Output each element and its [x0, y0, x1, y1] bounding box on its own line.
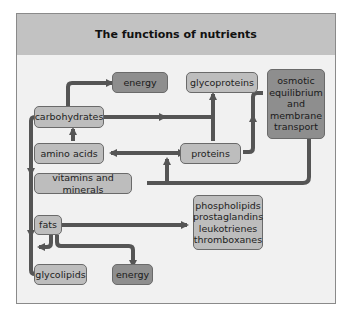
node-lipid-products: phospholipids prostaglandins leukotriene… — [193, 195, 263, 250]
arrow-carbs-to-glycolipids — [31, 117, 47, 274]
diagram-frame: The functions of nutrients — [16, 13, 336, 304]
node-fats: fats — [34, 215, 62, 235]
node-carbohydrates: carbohydrates — [34, 106, 104, 128]
arrow-fats-to-glycolipids — [39, 235, 51, 247]
node-vitamins-and-minerals: vitamins and minerals — [34, 173, 132, 194]
node-glycolipids: glycolipids — [34, 264, 87, 285]
node-energy-bottom: energy — [112, 264, 153, 285]
node-amino-acids: amino acids — [34, 143, 104, 164]
arrow-fats-to-energy — [57, 235, 133, 266]
node-glycoproteins: glycoproteins — [186, 72, 258, 93]
node-proteins: proteins — [180, 143, 241, 164]
node-osmotic-equilibrium: osmotic equilibrium and membrane transpo… — [267, 69, 325, 139]
node-energy-top: energy — [112, 72, 168, 93]
